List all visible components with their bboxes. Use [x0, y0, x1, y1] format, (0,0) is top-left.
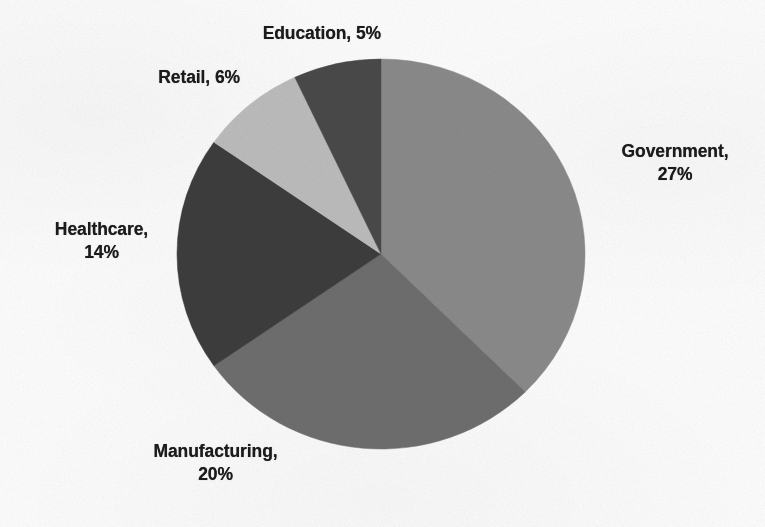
pie-label-government: Government, 27%: [590, 140, 760, 186]
pie-label-manufacturing: Manufacturing, 20%: [108, 440, 323, 486]
pie-label-education: Education, 5%: [186, 22, 381, 45]
pie-chart: Government, 27% Manufacturing, 20% Healt…: [0, 0, 765, 527]
pie-slices: [177, 59, 585, 449]
pie-label-retail: Retail, 6%: [110, 66, 240, 89]
pie-label-healthcare: Healthcare, 14%: [14, 218, 189, 264]
